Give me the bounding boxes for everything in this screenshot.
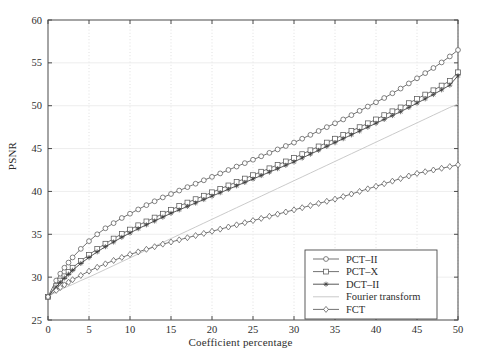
svg-text:30: 30 bbox=[32, 272, 43, 283]
x-axis-label: Coefficient percentage bbox=[0, 336, 481, 348]
svg-text:45: 45 bbox=[412, 324, 423, 335]
y-axis-label: PSNR bbox=[6, 126, 18, 186]
svg-text:45: 45 bbox=[32, 143, 43, 154]
svg-text:15: 15 bbox=[166, 324, 177, 335]
svg-text:50: 50 bbox=[32, 100, 43, 111]
svg-text:0: 0 bbox=[45, 324, 50, 335]
svg-text:25: 25 bbox=[248, 324, 259, 335]
svg-text:35: 35 bbox=[32, 229, 43, 240]
svg-text:20: 20 bbox=[207, 324, 218, 335]
legend-label: FCT bbox=[346, 304, 366, 315]
svg-text:55: 55 bbox=[32, 57, 43, 68]
svg-text:30: 30 bbox=[289, 324, 300, 335]
chart-legend: PCT–IIPCT–XDCT–IIFourier transformFCT bbox=[305, 250, 437, 319]
svg-text:40: 40 bbox=[32, 186, 43, 197]
svg-text:25: 25 bbox=[32, 315, 43, 326]
svg-text:60: 60 bbox=[32, 15, 43, 26]
legend-label: DCT–II bbox=[346, 279, 380, 290]
chart-figure: 051015202530354045502530354045505560 PCT… bbox=[0, 0, 481, 359]
legend-label: Fourier transform bbox=[346, 291, 420, 302]
svg-text:40: 40 bbox=[371, 324, 382, 335]
svg-text:5: 5 bbox=[86, 324, 91, 335]
svg-text:35: 35 bbox=[330, 324, 341, 335]
svg-text:50: 50 bbox=[453, 324, 464, 335]
legend-label: PCT–X bbox=[346, 266, 379, 277]
legend-label: PCT–II bbox=[346, 254, 378, 265]
svg-text:10: 10 bbox=[125, 324, 136, 335]
psnr-line-chart: 051015202530354045502530354045505560 PCT… bbox=[0, 0, 481, 359]
